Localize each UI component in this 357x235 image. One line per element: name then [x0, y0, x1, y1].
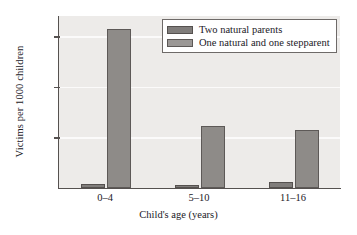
x-axis-title: Child's age (years) [0, 209, 357, 220]
y-tick-mark-4 [54, 137, 60, 138]
bar-stepparent-0-4 [107, 29, 131, 188]
x-tick-label-5-10: 5–10 [164, 192, 234, 203]
chart-legend: Two natural parents One natural and one … [162, 19, 337, 53]
bar-stepparent-11-16 [295, 130, 319, 188]
x-tick-label-0-4: 0–4 [70, 192, 140, 203]
y-tick-mark-8 [54, 87, 60, 88]
legend-swatch-two-natural-parents [167, 26, 193, 34]
legend-swatch-stepparent [167, 39, 193, 47]
bar-stepparent-5-10 [201, 126, 225, 188]
legend-label-two-natural-parents: Two natural parents [199, 23, 282, 36]
legend-item-stepparent: One natural and one stepparent [167, 36, 330, 49]
gridline-8 [59, 87, 340, 88]
y-tick-mark-12 [54, 36, 60, 37]
legend-label-stepparent: One natural and one stepparent [199, 36, 330, 49]
x-axis-line [58, 188, 341, 189]
x-tick-label-11-16: 11–16 [258, 192, 328, 203]
y-axis-title: Victims per 1000 children [14, 17, 25, 187]
legend-item-two-natural-parents: Two natural parents [167, 23, 330, 36]
bar-chart-figure: Victims per 1000 children 12 8 4 0–4 5–1… [0, 0, 357, 235]
